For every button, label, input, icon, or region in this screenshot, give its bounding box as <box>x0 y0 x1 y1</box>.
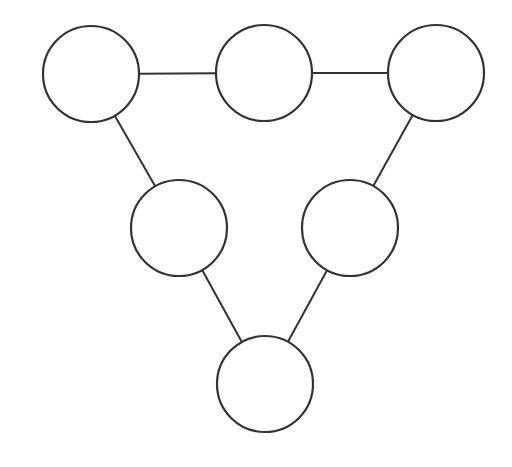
node-middle-left <box>131 180 227 276</box>
graph-diagram <box>0 0 512 467</box>
edge-top-right-middle-right <box>373 115 412 186</box>
node-top-middle <box>216 25 312 121</box>
edge-top-left-middle-left <box>115 116 155 187</box>
edge-middle-right-bottom <box>288 270 327 342</box>
nodes-layer <box>43 25 484 432</box>
node-top-right <box>388 25 484 121</box>
node-bottom <box>217 336 313 432</box>
node-top-left <box>43 26 139 122</box>
edge-middle-left-bottom <box>202 270 242 342</box>
node-middle-right <box>302 180 398 276</box>
